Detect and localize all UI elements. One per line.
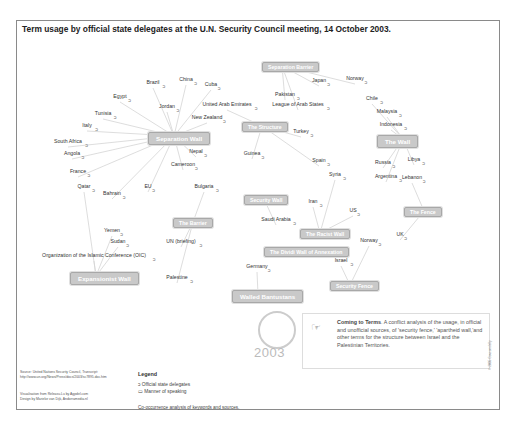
delegate-node[interactable]: UK: [396, 231, 403, 237]
delegate-node[interactable]: Pakistan: [275, 91, 295, 97]
delegate-node[interactable]: New Zealand: [192, 114, 223, 120]
delegate-hook-icon: ↄ: [81, 154, 84, 160]
hand-icon: ☞: [311, 321, 321, 334]
term-node-the-barrier[interactable]: The Barrier: [173, 218, 213, 228]
delegate-hook-icon: ↄ: [327, 161, 330, 167]
legend-item-delegates: ↄ Official state delegates: [138, 382, 190, 387]
delegate-node[interactable]: Norway: [346, 75, 364, 81]
delegate-hook-icon: ↄ: [404, 235, 407, 241]
source-line-1: Source: United Nations Security Council,…: [20, 370, 98, 374]
delegate-node[interactable]: Nepal: [189, 148, 203, 154]
term-node-the-wall[interactable]: The Wall: [377, 135, 418, 148]
delegate-node[interactable]: Qatar: [78, 183, 91, 189]
delegate-hook-icon: ↄ: [320, 202, 323, 208]
delegate-hook-icon: ↄ: [327, 81, 330, 87]
term-node-the-fence[interactable]: The Fence: [404, 207, 442, 217]
delegate-hook-icon: ↄ: [95, 126, 98, 132]
delegate-node[interactable]: Iran: [309, 198, 318, 204]
delegate-hook-icon: ↄ: [392, 163, 395, 169]
term-node-sep-wall[interactable]: Separation Wall: [148, 132, 210, 145]
delegate-node[interactable]: Jordan: [159, 103, 175, 109]
delegate-node[interactable]: Russia: [375, 159, 391, 165]
delegate-node[interactable]: Palestine: [166, 274, 187, 280]
legend-item-manner: ▭ Manner of speaking: [138, 389, 186, 394]
delegate-node[interactable]: UN (briefing): [166, 238, 195, 244]
delegate-node[interactable]: Sudan: [110, 238, 125, 244]
delegate-hook-icon: ↄ: [343, 175, 346, 181]
delegate-node[interactable]: US: [349, 207, 356, 213]
delegate-node[interactable]: Italy: [82, 122, 92, 128]
delegate-hook-icon: ↄ: [194, 80, 197, 86]
delegate-node[interactable]: Germany: [246, 263, 267, 269]
delegate-hook-icon: ↄ: [364, 79, 367, 85]
delegate-node[interactable]: United Arab Emirates: [202, 101, 251, 107]
delegate-node[interactable]: Bahrain: [103, 190, 121, 196]
delegate-node[interactable]: Lebanon: [402, 174, 422, 180]
delegate-node[interactable]: Malaysia: [377, 108, 397, 114]
credit-line-1: Visualisation from Releasu.Lu by Agpdel.…: [20, 392, 88, 396]
un-year: 2003: [254, 345, 285, 360]
delegate-node[interactable]: France: [70, 168, 86, 174]
delegate-node[interactable]: South Africa: [54, 138, 82, 144]
delegate-hook-icon: ↄ: [153, 256, 156, 262]
delegate-node[interactable]: EU: [144, 183, 151, 189]
delegate-node[interactable]: Angola: [64, 150, 80, 156]
delegate-node[interactable]: Tunisia: [95, 110, 112, 116]
delegate-hook-icon: ↄ: [152, 187, 155, 193]
term-node-expansionist-wall[interactable]: Expansionist Wall: [70, 272, 139, 285]
delegate-node[interactable]: Indonesia: [380, 121, 403, 127]
delegate-hook-icon: ↄ: [380, 99, 383, 105]
delegate-node[interactable]: Argentina: [375, 173, 397, 179]
delegate-node[interactable]: China: [179, 76, 193, 82]
delegate-node[interactable]: Chile: [366, 95, 378, 101]
delegate-hook-icon: ↄ: [126, 242, 129, 248]
delegate-node[interactable]: Turkey: [293, 128, 309, 134]
delegate-node[interactable]: Spain: [312, 157, 325, 163]
delegate-node[interactable]: Egypt: [113, 93, 126, 99]
delegate-hook-icon: ↄ: [350, 261, 353, 267]
delegate-hook-icon: ↄ: [310, 132, 313, 138]
delegate-node[interactable]: Norway: [360, 237, 378, 243]
term-node-walled-bantustans[interactable]: Walled Bantustans: [232, 290, 303, 303]
delegate-hook-icon: ↄ: [378, 241, 381, 247]
delegate-node[interactable]: Guinea: [244, 150, 261, 156]
copyright: © 2005 Govcomdelly: [488, 340, 492, 370]
delegate-hook-icon: ↄ: [120, 231, 123, 237]
delegate-node[interactable]: Cuba: [205, 81, 217, 87]
delegate-node[interactable]: Brazil: [147, 79, 160, 85]
source-url[interactable]: http://www.un.org/News/Press/docs/2003/s…: [20, 375, 107, 379]
delegate-hook-icon: ↄ: [293, 220, 296, 226]
info-heading: Coming to Terms: [337, 319, 381, 325]
delegate-hook-icon: ↄ: [422, 160, 425, 166]
delegate-node[interactable]: Bulgaria: [194, 183, 213, 189]
term-node-sep-barrier[interactable]: Separation Barrier: [262, 62, 319, 72]
delegate-hook-icon: ↄ: [195, 165, 198, 171]
un-emblem-icon: [258, 311, 296, 349]
delegate-hook-icon: ↄ: [204, 152, 207, 158]
info-text: Coming to Terms. A conflict analysis of …: [337, 319, 487, 349]
delegate-hook-icon: ↄ: [423, 178, 426, 184]
delegate-hook-icon: ↄ: [190, 278, 193, 284]
delegate-node[interactable]: Japan: [312, 77, 326, 83]
delegate-hook-icon: ↄ: [255, 105, 258, 111]
term-node-annexation-wall[interactable]: The Dividi Wall of Annexation: [264, 247, 349, 257]
delegate-node[interactable]: Cameroon: [171, 161, 195, 167]
delegate-node[interactable]: Israel: [335, 257, 348, 263]
delegate-node[interactable]: Libya: [408, 156, 420, 162]
term-node-the-structure[interactable]: The Structure: [242, 122, 288, 132]
delegate-hook-icon: ↄ: [223, 118, 226, 124]
term-node-racist-wall[interactable]: The Racist Wall: [300, 229, 350, 239]
delegate-hook-icon: ↄ: [85, 142, 88, 148]
delegate-hook-icon: ↄ: [176, 107, 179, 113]
delegate-node[interactable]: Saudi Arabia: [261, 216, 290, 222]
term-node-security-fence[interactable]: Security Fence: [330, 281, 379, 291]
delegate-hook-icon: ↄ: [200, 242, 203, 248]
delegate-node[interactable]: Organization of the Islamic Conference (…: [42, 252, 146, 258]
term-node-security-wall[interactable]: Security Wall: [244, 195, 288, 205]
delegate-node[interactable]: Syria: [329, 171, 341, 177]
delegate-node[interactable]: League of Arab States: [272, 101, 323, 107]
legend-note: Co-occurrence analysis of keywords and s…: [138, 405, 239, 410]
legend-title: Legend: [138, 371, 157, 377]
credit-line-2: Design by Marieke van Dijk, Andorramedia…: [20, 397, 88, 401]
delegate-node[interactable]: Yemen: [104, 227, 120, 233]
